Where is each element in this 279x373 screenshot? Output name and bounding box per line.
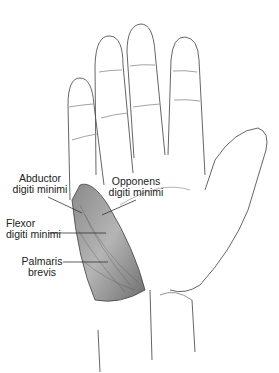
label-palmaris-brevis: Palmaris brevis [20, 256, 64, 278]
label-line: digiti minimi [6, 229, 68, 240]
label-flexor-digiti-minimi: Flexor digiti minimi [6, 218, 68, 240]
label-abductor-digiti-minimi: Abductor digiti minimi [4, 173, 76, 195]
label-line: digiti minimi [4, 184, 76, 195]
label-line: brevis [20, 267, 64, 278]
label-opponens-digiti-minimi: Opponens digiti minimi [100, 176, 172, 198]
label-line: digiti minimi [100, 187, 172, 198]
